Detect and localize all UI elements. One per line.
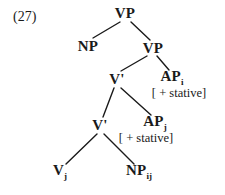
tree-node-ap-i: APi	[161, 69, 184, 87]
node-label: NP	[126, 162, 146, 178]
node-label: V	[92, 117, 103, 133]
node-label: AP	[143, 113, 163, 129]
tree-edge	[121, 88, 151, 115]
feature-bundle-ap-j: [ + stative]	[119, 132, 173, 145]
tree-node-np-spec: NP	[78, 39, 98, 54]
node-label: V	[53, 162, 64, 178]
tree-node-np-ij: NPij	[126, 163, 152, 181]
tree-node-vp-inner: VP	[143, 41, 163, 56]
bar-prime-mark: '	[120, 71, 124, 87]
tree-node-ap-j: APj	[143, 114, 166, 132]
feature-bundle-ap-i: [ + stative]	[152, 87, 206, 100]
tree-edge	[66, 134, 97, 164]
node-label: VP	[115, 5, 135, 21]
tree-node-vbar-2: V'	[92, 118, 107, 133]
tree-edge	[93, 22, 120, 38]
node-label: NP	[78, 38, 98, 54]
tree-node-v-j: Vj	[53, 163, 67, 181]
node-subscript-index: j	[64, 171, 67, 181]
tree-edge	[121, 56, 147, 71]
tree-edge	[103, 88, 114, 117]
syntax-tree-figure: (27) VPNPVPV'APiV'APjVjNPij[ + stative][…	[0, 0, 225, 195]
node-label: AP	[161, 68, 181, 84]
bar-prime-mark: '	[103, 117, 107, 133]
tree-node-vbar-1: V'	[109, 72, 124, 87]
tree-edge	[131, 22, 150, 40]
node-label: V	[109, 71, 120, 87]
node-label: VP	[143, 40, 163, 56]
tree-node-vp-root: VP	[115, 6, 135, 21]
node-subscript-index: ij	[146, 171, 152, 181]
